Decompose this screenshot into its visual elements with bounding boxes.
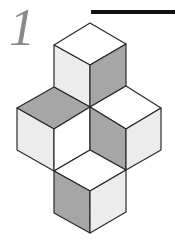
- isometric-cubes-figure: [0, 0, 175, 247]
